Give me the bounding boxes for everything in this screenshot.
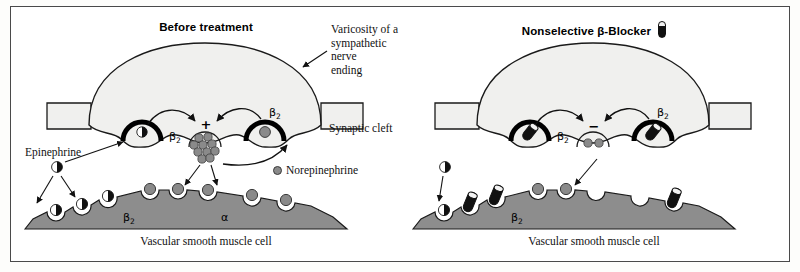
synaptic-cleft-annotation: Synaptic cleft: [329, 122, 393, 136]
muscle-receptor-ligand: [532, 183, 543, 194]
free-epinephrine-molecule: [440, 162, 451, 173]
norepinephrine-legend-label: Norepinephrine: [286, 164, 358, 176]
norepinephrine-legend: Norepinephrine: [273, 164, 358, 176]
figure-frame: Before treatment: [10, 6, 790, 262]
modulation-sign: +: [201, 117, 212, 132]
muscle-receptor-ligand: [76, 198, 87, 209]
muscle-receptor-ligand: [560, 183, 571, 194]
vascular-smooth-muscle-cell: [25, 190, 347, 229]
panel-beta-blocker: Nonselective β-Blocker: [399, 7, 789, 263]
varicosity-leader-line: [303, 51, 327, 67]
norepinephrine-swatch-icon: [273, 166, 282, 175]
muscle-receptor-ligand: [438, 204, 449, 215]
diffusion-arrow-muscle-b: [61, 176, 75, 197]
epinephrine-annotation: Epinephrine: [25, 146, 81, 160]
varicosity-annotation: Varicosity of a sympathetic nerve ending: [331, 23, 409, 77]
muscle-receptor-ligand: [50, 204, 61, 215]
panel-before-treatment: Before treatment: [11, 7, 401, 263]
axon-segment-left: [435, 103, 479, 129]
presynaptic-ligand-right-norepinephrine: [260, 127, 271, 138]
muscle-receptor-ligand: [172, 183, 183, 194]
muscle-receptor-ligand: [202, 184, 213, 195]
release-arrow-a: [185, 165, 200, 185]
muscle-receptor-ligand: [144, 183, 155, 194]
muscle-receptor-blocker: [462, 191, 478, 213]
modulation-sign: −: [589, 119, 600, 134]
muscle-receptor-ligand: [246, 189, 257, 200]
free-epinephrine-molecule: [52, 162, 63, 173]
presynaptic-ligand-left-epinephrine: [137, 127, 147, 137]
figure-root: Before treatment: [0, 0, 800, 272]
diffusion-arrow-muscle: [439, 176, 443, 201]
muscle-label-alpha: α: [221, 211, 228, 224]
muscle-receptor-blocker: [488, 184, 504, 206]
release-arrow-b: [211, 165, 217, 185]
axon-segment-right: [709, 103, 751, 129]
axon-segment-left: [47, 103, 91, 129]
muscle-receptor-ligand: [280, 194, 291, 205]
muscle-receptor-blocker: [666, 187, 682, 209]
muscle-cell-caption: Vascular smooth muscle cell: [399, 235, 789, 249]
diffusion-arrow-muscle-a: [37, 176, 53, 203]
vascular-smooth-muscle-cell: [413, 190, 735, 229]
muscle-cell-caption: Vascular smooth muscle cell: [11, 235, 401, 249]
muscle-receptor-ligand: [102, 190, 113, 201]
reuptake-arrow: [223, 145, 287, 165]
diagram-right: − β2 β2: [399, 7, 789, 263]
release-arrow: [575, 159, 597, 185]
